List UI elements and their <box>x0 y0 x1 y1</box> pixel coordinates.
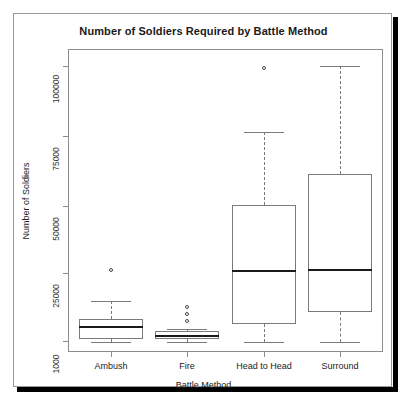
whisker-upper <box>111 301 112 319</box>
x-tick-mark-ambush <box>111 352 112 357</box>
x-tick-label-head-to-head: Head to Head <box>236 361 292 371</box>
figure-window: Number of Soldiers Required by Battle Me… <box>13 13 392 387</box>
whisker-lower <box>264 324 265 342</box>
whisker-upper <box>340 66 341 174</box>
x-tick-label-surround: Surround <box>321 361 358 371</box>
outlier-point <box>109 268 113 272</box>
window-shadow-right <box>393 17 398 391</box>
whisker-cap-lower <box>244 342 284 343</box>
median-line <box>79 326 143 328</box>
x-axis-label: Battle Method <box>14 380 393 390</box>
whisker-cap-lower <box>167 342 207 343</box>
x-tick-label-ambush: Ambush <box>94 361 127 371</box>
x-tick-mark-fire <box>187 352 188 357</box>
x-tick-mark-surround <box>340 352 341 357</box>
y-tick-label-75000: 75000 <box>51 136 61 182</box>
whisker-cap-lower <box>91 342 131 343</box>
whisker-upper <box>264 132 265 205</box>
y-axis-label: Number of Soldiers <box>21 162 31 239</box>
median-line <box>308 269 372 271</box>
median-line <box>232 270 296 272</box>
whisker-cap-lower <box>320 342 360 343</box>
chart-title: Number of Soldiers Required by Battle Me… <box>14 25 393 37</box>
box <box>232 205 296 324</box>
y-tick-label-50000: 50000 <box>51 206 61 252</box>
y-tick-label-100000: 100000 <box>51 66 61 112</box>
x-tick-mark-head-to-head <box>264 352 265 357</box>
median-line <box>155 335 219 337</box>
box <box>79 319 143 339</box>
box <box>308 174 372 312</box>
y-tick-label-25000: 25000 <box>51 273 61 319</box>
x-tick-label-fire: Fire <box>179 361 195 371</box>
outlier-point <box>262 66 266 70</box>
whisker-lower <box>340 312 341 342</box>
outlier-point <box>185 312 189 316</box>
outlier-point <box>185 305 189 309</box>
outlier-point <box>185 319 189 323</box>
